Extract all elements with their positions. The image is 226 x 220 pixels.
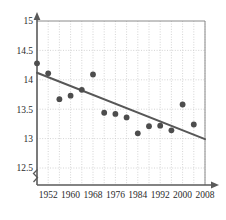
x-tick-label: 1984 (128, 190, 147, 200)
data-point (169, 127, 175, 133)
x-tick-label: 1992 (151, 190, 170, 200)
data-point (68, 93, 74, 99)
x-tick-label: 1960 (61, 190, 80, 200)
y-tick-label: 15 (24, 16, 34, 26)
data-point (146, 123, 152, 129)
data-point (101, 110, 107, 116)
data-point (45, 70, 51, 76)
data-point (57, 96, 63, 102)
y-tick-label: 14 (24, 75, 34, 85)
data-point (34, 60, 40, 66)
data-point (157, 123, 163, 129)
scatter-plot-figure: 12.51313.51414.515 195219601968197619841… (0, 0, 226, 220)
data-point (79, 87, 85, 93)
y-tick-label: 14.5 (16, 46, 33, 56)
data-point (90, 72, 96, 78)
x-tick-label: 2000 (173, 190, 192, 200)
x-tick-label: 1968 (84, 190, 103, 200)
data-point (135, 130, 141, 136)
trend-line (37, 73, 205, 139)
data-point (191, 122, 197, 128)
y-tick-label: 12.5 (16, 163, 33, 173)
data-points (34, 60, 197, 136)
y-tick-label: 13 (24, 134, 34, 144)
x-tick-labels: 19521960196819761984199220002008 (39, 190, 215, 200)
data-point (124, 115, 130, 121)
plot-canvas: 12.51313.51414.515 195219601968197619841… (0, 0, 226, 220)
y-axis (34, 12, 41, 185)
x-axis (37, 182, 219, 189)
y-tick-labels: 12.51313.51414.515 (16, 16, 33, 173)
y-tick-label: 13.5 (16, 105, 33, 115)
gridlines-horizontal (37, 50, 205, 168)
x-tick-label: 2008 (196, 190, 215, 200)
data-point (180, 102, 186, 108)
data-point (113, 111, 119, 117)
x-tick-label: 1976 (106, 190, 125, 200)
x-tick-label: 1952 (39, 190, 58, 200)
